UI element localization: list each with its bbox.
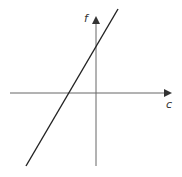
function-line [26,9,118,166]
x-axis-label: c [166,98,172,111]
y-axis-label: f [84,12,90,25]
graph-canvas: f c [0,0,182,177]
